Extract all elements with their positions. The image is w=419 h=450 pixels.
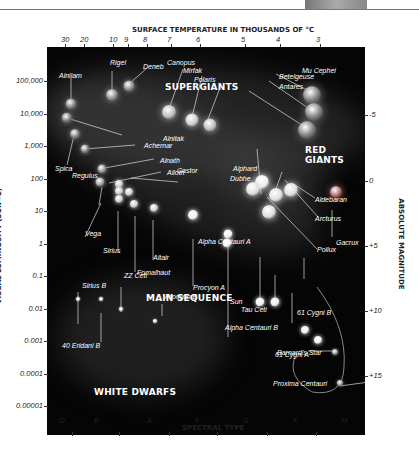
star-label: Deneb <box>143 63 164 70</box>
y-tick-mark <box>44 211 48 212</box>
top-tick-label: 30 <box>61 35 69 44</box>
top-tick-label: 5 <box>241 35 245 44</box>
star-marker <box>305 103 323 121</box>
x-category-label: B <box>94 416 99 425</box>
bottom-axis-title: SPECTRAL TYPE <box>182 424 244 432</box>
star-marker <box>125 188 133 196</box>
y-tick-label: 1,000 <box>24 141 43 150</box>
y-tick-mark <box>44 244 48 245</box>
star-marker <box>186 114 199 127</box>
right-axis-title: ABSOLUTE MAGNITUDE <box>397 198 405 289</box>
top-tick-label: 6 <box>196 35 200 44</box>
star-label: Altair <box>153 254 169 261</box>
y-tick-label: 1 <box>39 239 43 248</box>
star-marker <box>124 81 135 92</box>
top-tick-label: 8 <box>143 35 147 44</box>
y-tick-label: 100 <box>30 174 43 183</box>
right-tick-mark <box>364 311 368 312</box>
star-label: Arcturus <box>315 215 341 222</box>
star-label: Alnilam <box>59 72 82 79</box>
top-tick-label: 4 <box>276 35 280 44</box>
star-marker <box>303 86 321 104</box>
star-label: Procyon A <box>193 284 225 291</box>
star-label: Sirius B <box>82 282 106 289</box>
star-marker <box>298 121 316 139</box>
star-label: Mirfak <box>183 67 202 74</box>
star-marker <box>62 113 73 124</box>
star-label: Antares <box>279 83 303 90</box>
star-marker <box>332 349 338 355</box>
star-label: Gacrux <box>336 239 359 246</box>
star-label: Vega <box>85 230 101 237</box>
top-tick-label: 9 <box>124 35 128 44</box>
y-tick-mark <box>44 114 48 115</box>
right-tick-label: +5 <box>369 241 378 250</box>
star-marker <box>314 336 322 344</box>
right-tick-mark <box>364 115 368 116</box>
star-marker <box>119 307 123 311</box>
x-tick-mark <box>316 432 317 436</box>
star-marker <box>66 99 77 110</box>
y-tick-mark <box>44 341 48 342</box>
star-label: Sun <box>230 298 242 305</box>
y-tick-mark <box>44 374 48 375</box>
y-tick-label: 10 <box>35 206 43 215</box>
star-label: Alphard <box>233 165 257 172</box>
top-image-fragment <box>305 0 367 9</box>
top-tick-label: 20 <box>80 35 88 44</box>
star-label: Dubhe <box>230 175 251 182</box>
star-label: 61 Cygni B <box>297 309 331 316</box>
y-tick-label: 0.001 <box>24 336 43 345</box>
x-tick-mark <box>267 432 268 436</box>
star-label: Tau Ceti <box>241 306 267 313</box>
star-label: Rigel <box>110 59 126 66</box>
star-marker <box>262 205 276 219</box>
star-label: Spica <box>55 165 73 172</box>
star-label: Barnard's Star <box>277 349 322 356</box>
star-label: Betelgeuse <box>279 73 314 80</box>
y-tick-label: 100,000 <box>16 76 43 85</box>
y-tick-label: 0.1 <box>33 271 43 280</box>
star-marker <box>284 183 298 197</box>
plot-area: SUPERGIANTS RED GIANTS MAIN SEQUENCE WHI… <box>47 47 365 435</box>
top-axis-title: SURFACE TEMPERATURE IN THOUSANDS OF °C <box>132 26 314 34</box>
top-tick-label: 3 <box>316 35 320 44</box>
star-marker <box>301 326 309 334</box>
star-marker <box>153 319 157 323</box>
star-marker <box>99 297 103 301</box>
right-tick-label: +15 <box>369 371 382 380</box>
star-marker <box>162 105 176 119</box>
star-marker <box>204 119 217 132</box>
star-marker <box>188 210 198 220</box>
star-marker <box>150 204 158 212</box>
star-label: Achernar <box>144 142 172 149</box>
star-label: Sirius <box>103 247 121 254</box>
star-label: Aldebaran <box>315 196 347 203</box>
y-tick-mark <box>44 309 48 310</box>
star-label: Polaris <box>194 76 215 83</box>
star-label: Alpha Centauri A <box>198 238 251 245</box>
y-tick-label: 0.0001 <box>20 369 43 378</box>
star-marker <box>130 200 138 208</box>
y-tick-mark <box>44 146 48 147</box>
region-white-dwarfs: WHITE DWARFS <box>94 387 176 397</box>
star-label: Alnitak <box>163 135 184 142</box>
star-marker <box>70 129 80 139</box>
x-category-label: O <box>59 416 65 425</box>
x-tick-mark <box>119 432 120 436</box>
star-label: Pollux <box>317 246 336 253</box>
star-label: Castor <box>177 167 198 174</box>
y-tick-label: 10,000 <box>20 109 43 118</box>
region-supergiants: SUPERGIANTS <box>165 82 239 92</box>
top-tick-label: 10 <box>109 35 117 44</box>
star-marker <box>246 182 260 196</box>
star-marker <box>337 380 343 386</box>
star-label: Canopus <box>167 59 195 66</box>
right-tick-label: -5 <box>369 110 376 119</box>
star-marker <box>106 89 118 101</box>
left-axis-title: VISUAL LUMINOSITY (SUN=1) <box>0 188 3 304</box>
y-tick-label: 0.00001 <box>16 401 43 410</box>
star-marker <box>269 188 283 202</box>
star-marker <box>271 298 280 307</box>
x-tick-mark <box>169 432 170 436</box>
